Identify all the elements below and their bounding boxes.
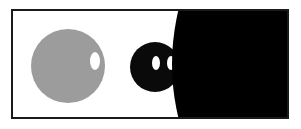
small-black-circle-eye-left bbox=[152, 56, 160, 70]
large-black-circle bbox=[172, 0, 301, 129]
gray-circle-highlight bbox=[90, 52, 100, 70]
illustration-svg bbox=[0, 0, 301, 129]
illustration-canvas: Abstract illustration: a gray circle wit… bbox=[0, 0, 301, 129]
